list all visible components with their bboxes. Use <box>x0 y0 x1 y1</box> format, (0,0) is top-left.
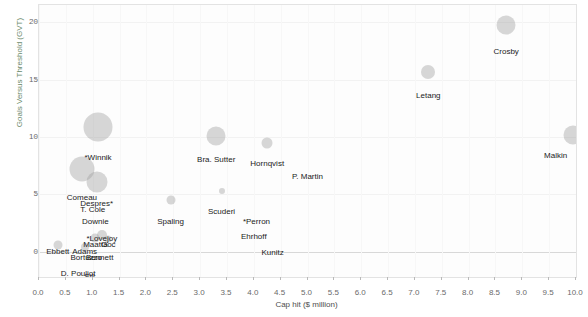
x-axis-tick-mark <box>226 277 227 280</box>
y-axis-tick-mark <box>35 79 38 80</box>
x-axis-tick-mark <box>414 277 415 280</box>
y-axis-tick-mark <box>35 21 38 22</box>
x-axis-tick-mark <box>65 277 66 280</box>
y-axis: 05101520 <box>0 0 588 317</box>
y-axis-tick-mark <box>35 193 38 194</box>
x-axis-tick-mark <box>441 277 442 280</box>
x-axis-tick-mark <box>145 277 146 280</box>
x-axis-tick-label: 10.0 <box>555 288 588 297</box>
y-axis-tick-mark <box>35 136 38 137</box>
x-axis-title: Cap hit ($ million) <box>38 300 575 309</box>
x-axis-tick-mark <box>199 277 200 280</box>
x-axis-tick-mark <box>494 277 495 280</box>
y-axis-title: Goals Versus Threshold (GVT) <box>15 0 24 148</box>
y-axis-tick-mark <box>35 251 38 252</box>
x-axis-tick-mark <box>119 277 120 280</box>
x-axis-tick-mark <box>38 277 39 280</box>
y-axis-tick-label: 5 <box>8 189 38 198</box>
x-axis-tick-mark <box>468 277 469 280</box>
x-axis-tick-mark <box>521 277 522 280</box>
x-axis-tick-mark <box>575 277 576 280</box>
y-axis-tick-label: 0 <box>8 246 38 255</box>
x-axis-tick-mark <box>253 277 254 280</box>
x-axis-tick-mark <box>387 277 388 280</box>
x-axis-tick-mark <box>548 277 549 280</box>
x-axis-tick-mark <box>360 277 361 280</box>
x-axis-tick-mark <box>307 277 308 280</box>
x-axis-tick-mark <box>172 277 173 280</box>
x-axis-tick-mark <box>333 277 334 280</box>
x-axis-tick-mark <box>280 277 281 280</box>
x-axis-tick-mark <box>92 277 93 280</box>
